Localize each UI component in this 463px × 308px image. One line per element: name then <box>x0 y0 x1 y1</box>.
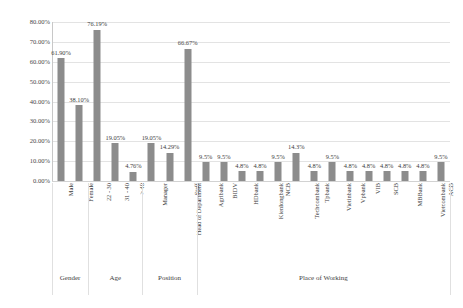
bar[interactable] <box>112 143 119 181</box>
category-slot: MBBank <box>396 183 414 255</box>
category-slot: Tpbank <box>305 183 323 255</box>
bar-slot: 4.8% <box>305 22 323 181</box>
y-axis-tick-label: 10.00% <box>4 158 50 165</box>
bar-slot: 9.5% <box>197 22 215 181</box>
bar-slot: 61.90% <box>52 22 70 181</box>
bar[interactable] <box>311 171 318 181</box>
y-axis-tick-label: 40.00% <box>4 98 50 105</box>
bar-slot: 9.5% <box>215 22 233 181</box>
y-axis-tick-label: 60.00% <box>4 58 50 65</box>
bar-value-label: 61.90% <box>51 50 71 56</box>
y-axis-tick-label: 70.00% <box>4 39 50 46</box>
bar-slot: 19.05% <box>106 22 124 181</box>
category-slot: Manager <box>142 183 160 255</box>
bar-value-label: 14.29% <box>160 144 180 150</box>
category-slot: ACB <box>432 183 450 255</box>
bar-slot: 4.8% <box>341 22 359 181</box>
bar-slot: 4.8% <box>251 22 269 181</box>
bar-value-label: 9.5% <box>271 154 284 160</box>
category-slot: Vpbank <box>341 183 359 255</box>
category-slot: HDbank <box>233 183 251 255</box>
bar-slot: 4.8% <box>233 22 251 181</box>
category-slot: 22 - 30 <box>88 183 106 255</box>
bar[interactable] <box>58 58 65 181</box>
group-name-label: Age <box>109 275 121 282</box>
category-slot: Vietcombank <box>414 183 432 255</box>
bar-value-label: 4.8% <box>253 163 266 169</box>
bar[interactable] <box>148 143 155 181</box>
bar-slot: 19.05% <box>142 22 160 181</box>
category-slot: SCB <box>378 183 396 255</box>
category-slot: VIB <box>360 183 378 255</box>
bar-value-label: 14.3% <box>288 144 305 150</box>
bar-value-label: 9.5% <box>326 154 339 160</box>
bar-value-label: 4.8% <box>398 163 411 169</box>
bar-slot: 4.8% <box>414 22 432 181</box>
bar[interactable] <box>257 171 264 181</box>
category-slot: Vietinbank <box>323 183 341 255</box>
bar[interactable] <box>238 171 245 181</box>
bar-slot: 38.10% <box>70 22 88 181</box>
bar-value-label: 66.67% <box>178 40 198 46</box>
group-name-label: Place of Working <box>299 275 348 282</box>
bar-slot: 4.76% <box>124 22 142 181</box>
bar-value-label: 38.10% <box>69 97 89 103</box>
y-axis-tick-label: 50.00% <box>4 78 50 85</box>
bar[interactable] <box>184 49 191 182</box>
bar-value-label: 4.8% <box>380 163 393 169</box>
bar-slot: 14.29% <box>161 22 179 181</box>
group-separator <box>450 183 451 295</box>
bar-value-label: 4.8% <box>235 163 248 169</box>
bar-slot: 9.5% <box>323 22 341 181</box>
y-axis-tick-label: 80.00% <box>4 19 50 26</box>
bar[interactable] <box>275 162 282 181</box>
bar-chart: 0.00%10.00%20.00%30.00%40.00%50.00%60.00… <box>0 0 463 308</box>
bar-value-label: 4.8% <box>308 163 321 169</box>
bar[interactable] <box>293 153 300 181</box>
bar[interactable] <box>130 172 137 181</box>
category-slot: > 40 <box>124 183 142 255</box>
category-slot: Staff <box>179 183 197 255</box>
category-slot: Kienlongbank <box>251 183 269 255</box>
bar-slot: 9.5% <box>432 22 450 181</box>
bar[interactable] <box>365 171 372 181</box>
bar-value-label: 9.5% <box>217 154 230 160</box>
category-slot: Techcombank <box>287 183 305 255</box>
bar[interactable] <box>166 153 173 181</box>
group-separator <box>52 183 53 295</box>
bar-value-label: 19.05% <box>105 135 125 141</box>
bar-slot: 4.8% <box>360 22 378 181</box>
bar[interactable] <box>383 171 390 181</box>
group-name-label: Gender <box>60 275 81 282</box>
bar-slot: 14.3% <box>287 22 305 181</box>
bar-value-label: 4.8% <box>416 163 429 169</box>
category-slot: Agribank <box>197 183 215 255</box>
bar[interactable] <box>401 171 408 181</box>
category-labels: MaleFemale22 - 3031 - 40> 40ManagerHead … <box>52 183 450 255</box>
bar-value-label: 76.19% <box>87 21 107 27</box>
bar[interactable] <box>202 162 209 181</box>
group-separator <box>88 183 89 295</box>
y-axis-tick-labels: 0.00%10.00%20.00%30.00%40.00%50.00%60.00… <box>0 22 50 181</box>
bar[interactable] <box>419 171 426 181</box>
bar-slot: 4.8% <box>396 22 414 181</box>
bar[interactable] <box>347 171 354 181</box>
bar[interactable] <box>329 162 336 181</box>
group-separator <box>197 183 198 295</box>
bar[interactable] <box>94 30 101 181</box>
y-axis-tick-label: 30.00% <box>4 118 50 125</box>
bar[interactable] <box>76 105 83 181</box>
category-slot: BIDV <box>215 183 233 255</box>
bar-slot: 76.19% <box>88 22 106 181</box>
bar-value-label: 4.8% <box>362 163 375 169</box>
category-slot: Male <box>52 183 70 255</box>
bar-value-label: 9.5% <box>199 154 212 160</box>
bar-value-label: 19.05% <box>142 135 162 141</box>
bar[interactable] <box>437 162 444 181</box>
category-slot: 31 - 40 <box>106 183 124 255</box>
bar[interactable] <box>220 162 227 181</box>
y-axis-tick-label: 20.00% <box>4 138 50 145</box>
group-name-label: Position <box>158 275 181 282</box>
bar-value-label: 4.76% <box>125 163 142 169</box>
y-axis-tick-label: 0.00% <box>4 178 50 185</box>
